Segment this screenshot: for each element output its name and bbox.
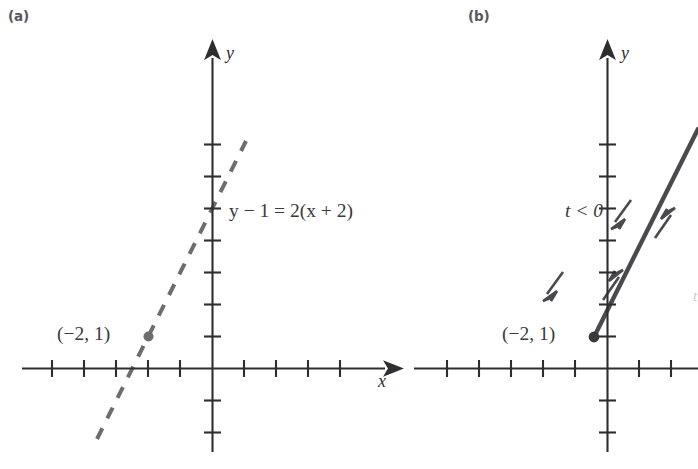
panel-a-plot bbox=[0, 0, 349, 469]
panel-a: (a) bbox=[0, 0, 349, 469]
point-label-a: (−2, 1) bbox=[57, 323, 110, 345]
panel-b-plot bbox=[349, 0, 698, 469]
direction-label-b: t < 0 bbox=[565, 200, 603, 222]
clipped-edge-text-b: t bbox=[693, 288, 698, 305]
y-axis-label-b: y bbox=[621, 43, 629, 64]
y-axis-a bbox=[204, 58, 221, 452]
x-axis-b bbox=[414, 360, 698, 377]
direction-arrow-down-left-upper bbox=[611, 200, 631, 229]
equation-label-a: y − 1 = 2(x + 2) bbox=[229, 200, 353, 222]
y-axis-b bbox=[599, 58, 616, 452]
figure-root: (a) bbox=[0, 0, 698, 469]
panel-b: (b) bbox=[349, 0, 698, 469]
y-axis-label-a: y bbox=[226, 43, 234, 64]
point-label-b: (−2, 1) bbox=[502, 323, 555, 345]
direction-arrow-down-left-lower bbox=[543, 272, 563, 301]
point-marker-a bbox=[144, 332, 154, 342]
line-dashed-a bbox=[97, 141, 246, 439]
point-marker-b bbox=[589, 332, 600, 343]
line-solid-b bbox=[594, 129, 698, 337]
x-axis-a bbox=[22, 360, 385, 377]
